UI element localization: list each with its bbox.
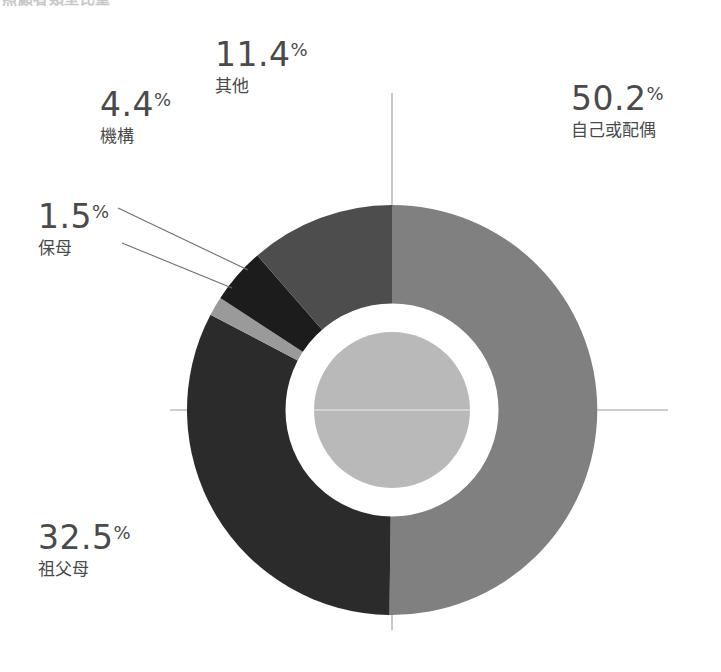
label-grandparents-category: 祖父母 xyxy=(38,561,131,578)
chart-title-clipped: 照顧者類型比重 xyxy=(2,0,111,8)
percent-sign-icon: % xyxy=(290,39,307,60)
label-grandparents: 32.5% 祖父母 xyxy=(38,521,131,578)
label-nanny-category: 保母 xyxy=(38,240,109,257)
percent-sign-icon: % xyxy=(646,83,663,104)
label-other-value: 11.4% xyxy=(215,38,308,71)
percent-sign-icon: % xyxy=(92,201,109,222)
leader-line-institution xyxy=(118,208,248,270)
label-other: 11.4% 其他 xyxy=(215,38,308,95)
label-nanny: 1.5% 保母 xyxy=(38,200,109,257)
label-self-or-spouse-value: 50.2% xyxy=(571,82,664,115)
label-self-or-spouse: 50.2% 自己或配偶 xyxy=(571,82,664,139)
label-institution-category: 機構 xyxy=(100,128,171,145)
label-other-category: 其他 xyxy=(215,78,308,95)
leader-line-nanny xyxy=(122,243,232,288)
label-institution-value: 4.4% xyxy=(100,88,171,121)
label-nanny-value: 1.5% xyxy=(38,200,109,233)
donut-chart: 照顧者類型比重 11.4% 其他 50.2% 自己或配偶 xyxy=(0,0,721,672)
label-self-or-spouse-category: 自己或配偶 xyxy=(571,122,664,139)
label-institution: 4.4% 機構 xyxy=(100,88,171,145)
percent-sign-icon: % xyxy=(113,522,130,543)
label-grandparents-value: 32.5% xyxy=(38,521,131,554)
percent-sign-icon: % xyxy=(154,89,171,110)
